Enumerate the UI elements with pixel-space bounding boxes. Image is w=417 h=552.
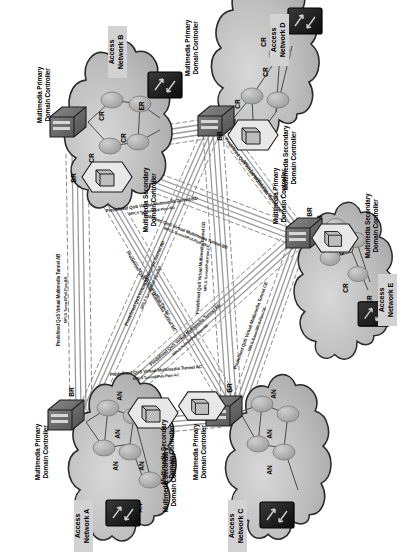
secondary-controller-label-C-line1: Multimedia Secondary: [160, 419, 168, 484]
network-label-C-line1: Access: [227, 514, 236, 539]
node-label-A-2: AN: [114, 429, 121, 439]
primary-controller-label-C-line2: Domain Controller: [200, 425, 207, 479]
node-label-D-2: CR: [262, 67, 269, 77]
primary-controller-label-D-line2: Domain Controller: [192, 21, 199, 75]
secondary-controller-label-D-line2: Domain Controller: [290, 131, 297, 185]
primary-controller-label-B-line2: Domain Controller: [44, 68, 51, 122]
border-router-label-C: BR: [226, 383, 233, 393]
network-label-C-line2: Network C: [236, 509, 245, 544]
secondary-controller-A[interactable]: [128, 398, 178, 428]
network-label-E-line1: Access: [377, 288, 386, 313]
node-label-B-3: CR: [88, 153, 95, 163]
diagram-canvas: CR CR CR ER BR Multimedia Primary Domain…: [0, 0, 417, 552]
primary-controller-label-E-line2: Domain Controller: [280, 169, 287, 223]
network-topology-diagram: CR CR CR ER BR Multimedia Primary Domain…: [0, 0, 417, 552]
network-label-B-line2: Network B: [116, 35, 125, 70]
primary-controller-label-D-line1: Multimedia Primary: [184, 19, 192, 76]
tunnel-sublabel-DE: MPLS-Tunnel/IPv6-Pipe-DE: [242, 159, 274, 199]
edge-router-D[interactable]: [288, 8, 322, 34]
secondary-controller-C[interactable]: [178, 392, 225, 420]
node-label-B-2: CR: [120, 133, 127, 143]
border-router-label-D: BR: [216, 131, 223, 141]
access-network-A[interactable]: AN AN AN AN AN BR Multimedia Primary Dom…: [34, 373, 178, 552]
secondary-controller-E[interactable]: [312, 224, 358, 252]
primary-controller-label-C-line1: Multimedia Primary: [192, 423, 200, 480]
secondary-controller-label-B-line1: Multimedia Secondary: [142, 167, 150, 232]
network-label-D-line1: Access: [269, 28, 278, 53]
node-label-C-1: AN: [270, 389, 277, 399]
node-label-A-4: AN: [138, 461, 145, 471]
secondary-controller-label-E-line1: Multimedia Secondary: [364, 193, 372, 258]
network-label-A-line2: Network A: [82, 509, 91, 543]
border-router-label-E: BR: [306, 207, 313, 217]
node-label-B-1: CR: [98, 111, 105, 121]
edge-router-B[interactable]: [148, 72, 182, 98]
network-label-A-line1: Access: [73, 514, 82, 539]
access-network-C[interactable]: AN AN AN AN BR Multimedia Primary Domain…: [160, 375, 331, 552]
tunnel-label-AB: Predefined QoS Virtual Multimedia Tunnel…: [56, 253, 61, 346]
node-label-E-3: CR: [342, 283, 349, 293]
network-label-B-line1: Access: [107, 40, 116, 65]
edge-router-label-B: ER: [138, 101, 145, 110]
edge-router-C[interactable]: [260, 502, 294, 528]
node-label-C-3: AN: [266, 465, 273, 475]
secondary-controller-label-E-line2: Domain Controller: [372, 199, 379, 253]
tunnel-sublabel-AB: MPLS Tunnel/IPv6-Pipe-AB: [63, 277, 68, 324]
node-label-D-3: CR: [234, 99, 241, 109]
primary-controller-label-A-line2: Domain Controller: [42, 425, 49, 479]
node-label-D-1: CR: [260, 37, 267, 47]
primary-controller-label-A-line1: Multimedia Primary: [34, 423, 42, 480]
secondary-controller-D[interactable]: [228, 120, 278, 150]
border-router-label-B: BR: [70, 173, 77, 183]
border-router-label-A: BR: [68, 387, 75, 397]
access-network-D[interactable]: CR CR CR ER BR Multimedia Primary Domain…: [184, 0, 322, 190]
network-label-E-line2: Network E: [386, 283, 395, 318]
secondary-controller-label-C-line2: Domain Controller: [168, 425, 175, 479]
primary-controller-label-B-line1: Multimedia Primary: [36, 66, 44, 123]
node-label-C-2: AN: [266, 429, 273, 439]
secondary-controller-B[interactable]: [82, 162, 132, 192]
node-label-A-1: AN: [116, 391, 123, 401]
network-label-D-line2: Network D: [278, 23, 287, 58]
edge-router-A[interactable]: [106, 500, 140, 526]
node-label-A-3: AN: [112, 461, 119, 471]
tunnel-label-AE: Predefined QoS Virtual Multimedia Tunnel…: [149, 303, 222, 367]
